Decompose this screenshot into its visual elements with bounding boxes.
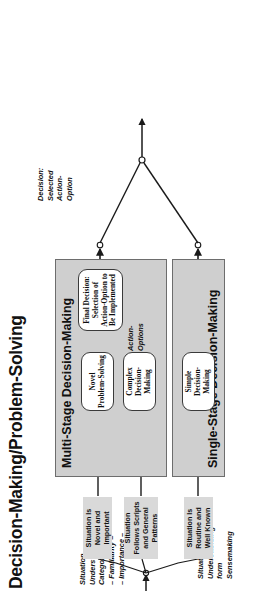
decision-line-1: Selected <box>46 168 56 201</box>
node-final-decision: Final Decision: Selection of Action-Opti… <box>78 269 123 331</box>
actopt-line-1: Options <box>136 323 146 351</box>
situation-box-follows-scripts: Situation Follows Scripts and General Pa… <box>124 497 158 559</box>
panel-label-multi-stage: Multi-Stage Decision-Making <box>60 298 74 468</box>
edge-label-action-options: Action- Options <box>126 323 145 351</box>
edge-label-decision-output: Decision: Selected Action- Option <box>36 168 75 201</box>
situation-box-novel-important: Situation Is Novel and Important <box>83 497 112 559</box>
situation-box-routine-well-known: Situation Is Routine and Well Known <box>184 497 213 559</box>
node-simple-decision-making: Simple Decision-Making <box>182 352 215 411</box>
diagram-title: Decision-Making/Problem-Solving <box>6 315 27 589</box>
sense-line-2: form <box>215 527 225 579</box>
decision-line-2: Action- <box>55 168 65 201</box>
actopt-line-0: Action- <box>126 323 136 351</box>
decision-line-3: Option <box>65 168 75 201</box>
sense-line-3: Sensemaking <box>225 527 235 579</box>
decision-line-0: Decision: <box>36 168 46 201</box>
node-complex-decision-making: Complex Decision-Making <box>123 352 156 411</box>
node-novel-problem-solving: Novel Problem-Solving <box>81 352 114 411</box>
edge-source-trunk <box>143 570 148 591</box>
diagram-canvas: Decision-Making/Problem-Solving Multi-St… <box>0 0 272 597</box>
edge-output-merge <box>100 119 198 243</box>
